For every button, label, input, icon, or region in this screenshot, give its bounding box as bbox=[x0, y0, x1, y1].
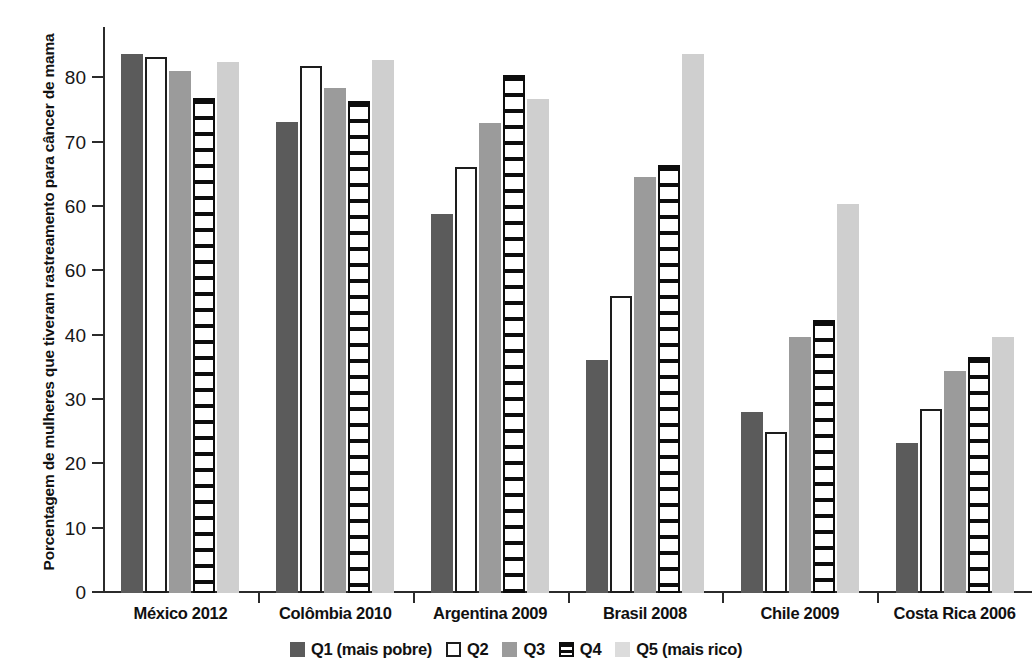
bar-q4 bbox=[658, 165, 680, 593]
y-axis-tick-label: 10 bbox=[40, 519, 86, 538]
x-axis-category-label: Costa Rica 2006 bbox=[877, 604, 1032, 623]
bar-q3 bbox=[789, 337, 811, 593]
bar-q1 bbox=[741, 412, 763, 593]
bar-q1 bbox=[431, 214, 453, 593]
legend-item-label: Q5 (mais rico) bbox=[636, 640, 742, 659]
y-axis-tick-label: 60 bbox=[40, 197, 86, 216]
bar-q2 bbox=[920, 409, 942, 593]
x-axis-tick bbox=[258, 593, 260, 603]
bar-q5 bbox=[837, 204, 859, 593]
bar-q2 bbox=[765, 432, 787, 593]
x-axis-tick bbox=[877, 593, 879, 603]
bar-group bbox=[568, 27, 723, 593]
chart-legend: Q1 (mais pobre)Q2Q3Q4Q5 (mais rico) bbox=[0, 640, 1032, 659]
bar-q5 bbox=[682, 54, 704, 593]
legend-item-q2[interactable]: Q2 bbox=[446, 640, 488, 659]
bar-q1 bbox=[586, 360, 608, 593]
legend-swatch-q1-icon bbox=[290, 642, 305, 657]
y-axis-tick-label: 60 bbox=[40, 261, 86, 280]
bar-q4 bbox=[193, 98, 215, 593]
bar-q1 bbox=[121, 54, 143, 593]
y-axis-tick bbox=[92, 527, 103, 529]
bar-q2 bbox=[610, 296, 632, 593]
y-axis-title: Porcentagem de mulheres que tiveram rast… bbox=[39, 17, 59, 587]
legend-swatch-q3-icon bbox=[502, 642, 517, 657]
y-axis-tick-label: 20 bbox=[40, 454, 86, 473]
y-axis-tick bbox=[92, 205, 103, 207]
legend-item-q3[interactable]: Q3 bbox=[502, 640, 544, 659]
y-axis-tick bbox=[92, 398, 103, 400]
legend-item-q4[interactable]: Q4 bbox=[559, 640, 601, 659]
legend-item-q1[interactable]: Q1 (mais pobre) bbox=[290, 640, 432, 659]
bar-q5 bbox=[992, 337, 1014, 593]
x-axis-tick bbox=[722, 593, 724, 603]
legend-item-label: Q3 bbox=[523, 640, 544, 659]
bar-group bbox=[722, 27, 877, 593]
x-axis-tick bbox=[568, 593, 570, 603]
y-axis-tick bbox=[92, 269, 103, 271]
bar-q4 bbox=[968, 357, 990, 593]
bar-q1 bbox=[276, 122, 298, 593]
y-axis-tick bbox=[92, 76, 103, 78]
legend-swatch-q2-icon bbox=[446, 642, 461, 657]
y-axis-tick-label: 80 bbox=[40, 68, 86, 87]
bar-q3 bbox=[324, 88, 346, 593]
y-axis-tick bbox=[92, 141, 103, 143]
legend-item-label: Q4 bbox=[580, 640, 601, 659]
y-axis-tick-label: 0 bbox=[40, 583, 86, 602]
x-axis-category-label: Colômbia 2010 bbox=[258, 604, 413, 623]
bar-q5 bbox=[217, 62, 239, 593]
bar-q2 bbox=[455, 167, 477, 593]
bar-group bbox=[258, 27, 413, 593]
bar-group bbox=[877, 27, 1032, 593]
y-axis-tick bbox=[92, 591, 103, 593]
legend-item-label: Q2 bbox=[467, 640, 488, 659]
bar-q1 bbox=[896, 443, 918, 593]
x-axis-category-label: Brasil 2008 bbox=[568, 604, 723, 623]
bar-q3 bbox=[944, 371, 966, 593]
legend-item-q5[interactable]: Q5 (mais rico) bbox=[615, 640, 742, 659]
legend-item-label: Q1 (mais pobre) bbox=[311, 640, 432, 659]
plot-area bbox=[103, 27, 1032, 593]
legend-swatch-q5-icon bbox=[615, 642, 630, 657]
bar-q3 bbox=[479, 123, 501, 593]
bar-q3 bbox=[634, 177, 656, 593]
bar-chart: Porcentagem de mulheres que tiveram rast… bbox=[0, 0, 1032, 669]
bar-group bbox=[103, 27, 258, 593]
y-axis-tick-label: 70 bbox=[40, 133, 86, 152]
bar-group bbox=[413, 27, 568, 593]
y-axis-tick bbox=[92, 462, 103, 464]
bar-q4 bbox=[813, 320, 835, 593]
x-axis-category-label: México 2012 bbox=[103, 604, 258, 623]
y-axis-tick bbox=[92, 334, 103, 336]
bar-q5 bbox=[527, 99, 549, 593]
x-axis-category-label: Chile 2009 bbox=[722, 604, 877, 623]
bar-q3 bbox=[169, 71, 191, 593]
y-axis-tick-label: 30 bbox=[40, 390, 86, 409]
bar-q2 bbox=[300, 66, 322, 593]
y-axis-tick-label: 40 bbox=[40, 326, 86, 345]
bar-q4 bbox=[348, 101, 370, 593]
bar-q5 bbox=[372, 60, 394, 593]
x-axis-category-label: Argentina 2009 bbox=[413, 604, 568, 623]
bar-q4 bbox=[503, 75, 525, 593]
x-axis-tick bbox=[413, 593, 415, 603]
legend-swatch-q4-icon bbox=[559, 642, 574, 657]
bar-q2 bbox=[145, 57, 167, 593]
